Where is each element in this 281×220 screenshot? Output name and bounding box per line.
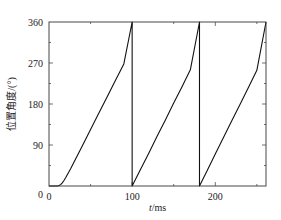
ticks-layer	[49, 22, 266, 186]
y-tick-label: 90	[33, 140, 43, 151]
x-tick-label: 200	[208, 191, 223, 202]
plot-frame	[49, 22, 266, 186]
series-line-position-angle	[49, 22, 266, 186]
y-tick-label: 360	[28, 17, 43, 28]
y-tick-label: 180	[28, 99, 43, 110]
y-tick-label: 0	[38, 189, 43, 200]
x-tick-label: 100	[125, 191, 140, 202]
x-axis-label: t/ms	[149, 202, 166, 213]
tick-labels-layer: 0100200090180270360	[28, 17, 223, 203]
y-tick-label: 270	[28, 58, 43, 69]
x-axis-label-unit: /ms	[152, 202, 167, 213]
y-axis-label: 位置角度/(°)	[5, 77, 18, 130]
x-tick-label: 0	[47, 191, 52, 202]
chart: 0100200090180270360 t/ms 位置角度/(°)	[0, 0, 281, 220]
